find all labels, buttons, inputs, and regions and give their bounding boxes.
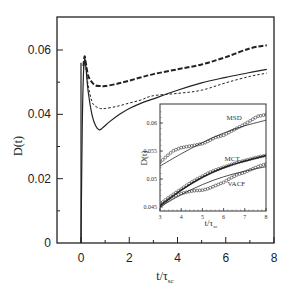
inset-y-tick-label: 0.05 — [147, 176, 158, 182]
inset-x-tick-label: 4 — [180, 214, 183, 220]
figure: 0246800.020.040.06D(t)t/τsc 3456780.0450… — [0, 0, 290, 289]
x-tick-label: 2 — [126, 251, 133, 265]
x-tick-label: 0 — [78, 251, 85, 265]
inset-x-tick-label: 5 — [201, 214, 204, 220]
inset-y-tick-label: 0.045 — [144, 204, 158, 210]
y-axis-label: D(t) — [11, 136, 25, 156]
inset-annotation-msd: MSD — [227, 114, 242, 122]
inset-y-axis-label: D(t) — [139, 151, 149, 166]
x-tick-label: 6 — [222, 251, 229, 265]
inset-x-tick-label: 8 — [265, 214, 268, 220]
x-tick-label: 8 — [271, 251, 278, 265]
x-tick-label: 4 — [174, 251, 181, 265]
inset-x-tick-label: 3 — [159, 214, 162, 220]
inset-x-tick-label: 6 — [222, 214, 225, 220]
x-axis-label: t/τsc — [156, 269, 173, 285]
inset-x-tick-label: 7 — [243, 214, 246, 220]
y-tick-label: 0.02 — [28, 172, 52, 186]
y-tick-label: 0.06 — [28, 43, 52, 57]
inset-plot: 3456780.0450.050.0550.06D(t)t/τscMSDMCTV… — [139, 104, 268, 229]
inset-annotation-vacf: VACF — [227, 180, 245, 188]
inset-y-tick-label: 0.06 — [147, 120, 158, 126]
y-tick-label: 0.04 — [28, 107, 52, 121]
inset-annotation-mct: MCT — [224, 155, 240, 163]
y-tick-label: 0 — [44, 236, 51, 250]
main-series-1 — [83, 45, 266, 86]
inset-x-axis-label: t/τsc — [205, 218, 219, 229]
